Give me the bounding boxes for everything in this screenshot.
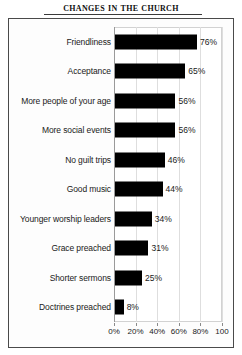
category-label: Doctrines preached bbox=[39, 302, 111, 312]
bar bbox=[115, 211, 152, 226]
bar bbox=[115, 34, 197, 49]
x-tick-mark bbox=[157, 323, 158, 326]
bar-value-label: 8% bbox=[127, 302, 139, 312]
x-tick-label: 100 bbox=[215, 327, 228, 336]
category-label: Good music bbox=[67, 184, 111, 194]
bar bbox=[115, 93, 175, 108]
bar-row: More people of your age56% bbox=[9, 86, 235, 116]
bar-value-label: 34% bbox=[155, 214, 172, 224]
category-label: Friendliness bbox=[66, 37, 111, 47]
x-tick-label: 60% bbox=[171, 327, 187, 336]
x-tick-mark bbox=[222, 323, 223, 326]
bar-value-label: 56% bbox=[178, 125, 195, 135]
category-label: No guilt trips bbox=[65, 155, 111, 165]
bar bbox=[115, 241, 148, 256]
x-tick-label: 0% bbox=[108, 327, 120, 336]
bar-value-label: 76% bbox=[200, 37, 217, 47]
bar-value-label: 31% bbox=[151, 243, 168, 253]
x-tick-label: 80% bbox=[192, 327, 208, 336]
x-axis: 0%20%40%60%80%100 bbox=[114, 323, 222, 339]
category-label: Shorter sermons bbox=[50, 273, 111, 283]
chart-frame: Friendliness76%Acceptance65%More people … bbox=[8, 18, 234, 348]
bar-value-label: 46% bbox=[168, 155, 185, 165]
bar-row: No guilt trips46% bbox=[9, 145, 235, 175]
bar-row: Acceptance65% bbox=[9, 57, 235, 87]
bar-row: More social events56% bbox=[9, 116, 235, 146]
bar bbox=[115, 123, 175, 138]
category-label: More people of your age bbox=[21, 96, 111, 106]
bar bbox=[115, 182, 163, 197]
bar-value-label: 25% bbox=[145, 273, 162, 283]
x-tick-label: 40% bbox=[149, 327, 165, 336]
category-label: Acceptance bbox=[68, 66, 111, 76]
x-tick-label: 20% bbox=[128, 327, 144, 336]
bar bbox=[115, 152, 165, 167]
bar-value-label: 65% bbox=[188, 66, 205, 76]
bar-row: Shorter sermons25% bbox=[9, 263, 235, 293]
x-tick-mark bbox=[200, 323, 201, 326]
x-tick-mark bbox=[179, 323, 180, 326]
bar-row: Friendliness76% bbox=[9, 27, 235, 57]
category-label: Younger worship leaders bbox=[20, 214, 111, 224]
bar bbox=[115, 64, 185, 79]
bar bbox=[115, 270, 142, 285]
x-tick-mark bbox=[114, 323, 115, 326]
bar-row: Grace preached31% bbox=[9, 234, 235, 264]
bar-row: Good music44% bbox=[9, 175, 235, 205]
bar-row: Doctrines preached8% bbox=[9, 293, 235, 323]
category-label: More social events bbox=[42, 125, 111, 135]
x-tick-mark bbox=[136, 323, 137, 326]
category-label: Grace preached bbox=[51, 243, 111, 253]
page-title: Changes in the Church bbox=[0, 1, 242, 14]
bar-value-label: 56% bbox=[178, 96, 195, 106]
bar bbox=[115, 300, 124, 315]
bar-row: Younger worship leaders34% bbox=[9, 204, 235, 234]
bar-value-label: 44% bbox=[166, 184, 183, 194]
title-underline bbox=[44, 14, 202, 15]
